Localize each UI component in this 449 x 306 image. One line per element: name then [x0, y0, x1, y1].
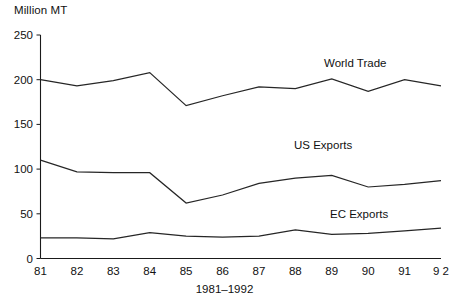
x-tick-label-86: 86 — [216, 265, 229, 277]
y-tick-label-50: 50 — [3, 208, 33, 220]
y-tick-label-100: 100 — [3, 163, 33, 175]
x-tick-label-87: 87 — [253, 265, 266, 277]
y-tick-label-200: 200 — [3, 74, 33, 86]
data-line-world-trade — [41, 73, 442, 106]
x-tick-label-88: 88 — [289, 265, 302, 277]
x-tick-label-83: 83 — [107, 265, 120, 277]
x-axis-title: 1981–1992 — [0, 283, 449, 295]
y-tick-label-0: 0 — [3, 253, 33, 265]
y-tick-label-150: 150 — [3, 118, 33, 130]
data-line-us-exports — [41, 160, 442, 203]
x-tick-label-91: 91 — [398, 265, 411, 277]
x-tick-label-84: 84 — [143, 265, 156, 277]
plot-area — [0, 0, 449, 306]
x-tick-label-82: 82 — [71, 265, 84, 277]
y-tick-label-250: 250 — [3, 29, 33, 41]
x-tick-label-85: 85 — [180, 265, 193, 277]
line-chart: Million MT 050100150200250 8182838485868… — [0, 0, 449, 306]
x-tick-label-90: 90 — [362, 265, 375, 277]
x-tick-label-81: 81 — [34, 265, 47, 277]
series-label-us-exports: US Exports — [294, 139, 352, 151]
series-label-world-trade: World Trade — [324, 57, 386, 69]
x-tick-label-92: 9 2 — [433, 265, 449, 277]
data-line-ec-exports — [41, 228, 442, 239]
x-tick-label-89: 89 — [325, 265, 338, 277]
series-label-ec-exports: EC Exports — [330, 208, 388, 220]
